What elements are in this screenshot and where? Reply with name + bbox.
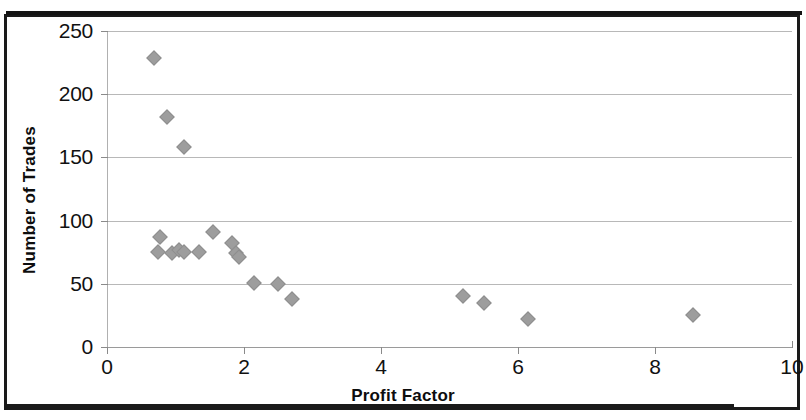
y-axis-tick-labels: 050100150200250 <box>0 31 93 347</box>
y-tick-50 <box>101 284 108 285</box>
data-point <box>685 308 701 324</box>
x-axis-line <box>107 347 792 348</box>
y-tick-250 <box>101 31 108 32</box>
y-tick-label-200: 200 <box>59 82 93 106</box>
plot-area <box>107 31 792 347</box>
page-border-top-edge <box>6 11 802 15</box>
data-point <box>176 140 192 156</box>
y-tick-label-250: 250 <box>59 19 93 43</box>
data-point <box>153 229 169 245</box>
x-tick-10 <box>792 341 793 348</box>
scatter-chart-figure: Number of Trades 050100150200250 0246810… <box>0 0 806 420</box>
gridline-y-150 <box>107 157 792 158</box>
gridline-y-50 <box>107 284 792 285</box>
data-point <box>270 276 286 292</box>
data-point <box>476 295 492 311</box>
x-tick-label-4: 4 <box>375 355 387 379</box>
x-tick-2 <box>244 347 245 354</box>
y-tick-label-100: 100 <box>59 209 93 233</box>
y-tick-100 <box>101 221 108 222</box>
y-tick-label-0: 0 <box>82 335 93 359</box>
x-tick-label-8: 8 <box>649 355 661 379</box>
x-tick-label-2: 2 <box>238 355 250 379</box>
x-axis-tick-labels: 0246810 <box>107 355 797 385</box>
x-axis-title: Profit Factor <box>0 386 806 406</box>
x-tick-0 <box>107 347 108 354</box>
data-point <box>246 275 262 291</box>
data-point <box>520 311 536 327</box>
y-tick-label-150: 150 <box>59 145 93 169</box>
gridline-y-250 <box>107 31 792 32</box>
x-tick-6 <box>518 347 519 354</box>
data-point <box>159 109 175 125</box>
data-point <box>205 224 221 240</box>
x-tick-label-6: 6 <box>512 355 524 379</box>
gridline-y-100 <box>107 221 792 222</box>
y-tick-200 <box>101 94 108 95</box>
y-tick-label-50: 50 <box>70 272 93 296</box>
x-tick-label-0: 0 <box>101 355 113 379</box>
gridline-y-200 <box>107 94 792 95</box>
data-point <box>455 289 471 305</box>
data-point <box>192 244 208 260</box>
data-point <box>146 50 162 66</box>
y-tick-150 <box>101 157 108 158</box>
data-point <box>284 291 300 307</box>
y-axis-line <box>107 31 108 348</box>
x-tick-label-10: 10 <box>780 355 803 379</box>
x-tick-8 <box>655 347 656 354</box>
x-tick-4 <box>381 347 382 354</box>
